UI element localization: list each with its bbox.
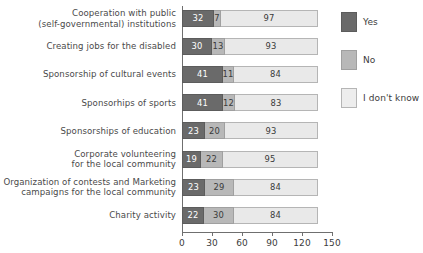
x-axis-tick bbox=[212, 232, 213, 236]
bar-row: 301393 bbox=[182, 38, 318, 55]
bar-row: 232093 bbox=[182, 122, 318, 139]
plot-area: 3279730139341118441128323209319229523298… bbox=[182, 0, 342, 232]
bar-segment: 22 bbox=[201, 151, 223, 168]
bar-segment: 95 bbox=[223, 151, 318, 168]
bar-value-label: 93 bbox=[266, 42, 277, 50]
bar-segment: 23 bbox=[182, 122, 205, 139]
category-label-line: Sponsorhips of sports bbox=[0, 98, 176, 109]
category-label-line: campaigns for the local community bbox=[0, 187, 176, 198]
category-label-line: (self-governmental) institutions bbox=[0, 19, 176, 30]
x-axis-line bbox=[182, 232, 333, 233]
x-axis-tick-label: 120 bbox=[293, 238, 310, 248]
bar-row: 192295 bbox=[182, 151, 318, 168]
category-label-line: Organization of contests and Marketing bbox=[0, 177, 176, 188]
category-axis-labels: Cooperation with public(self-governmenta… bbox=[0, 0, 180, 232]
legend-label: No bbox=[363, 55, 375, 65]
bar-value-label: 30 bbox=[192, 42, 203, 50]
bar-value-label: 23 bbox=[188, 183, 199, 191]
bar-value-label: 12 bbox=[223, 99, 234, 107]
bar-value-label: 93 bbox=[266, 127, 277, 135]
bar-value-label: 11 bbox=[223, 70, 233, 78]
bar-segment: 93 bbox=[225, 122, 318, 139]
x-axis-tick bbox=[242, 232, 243, 236]
bar-value-label: 29 bbox=[214, 183, 225, 191]
bar-value-label: 84 bbox=[270, 183, 281, 191]
bar-value-label: 20 bbox=[209, 127, 220, 135]
category-label-line: Creating jobs for the disabled bbox=[0, 41, 176, 52]
category-label: Charity activity bbox=[0, 210, 176, 221]
bar-segment: 83 bbox=[235, 94, 318, 111]
bar-segment: 30 bbox=[204, 207, 234, 224]
category-label: Sponsorship of cultural events bbox=[0, 69, 176, 80]
legend-swatch-icon bbox=[341, 88, 357, 108]
legend-swatch-icon bbox=[341, 12, 357, 32]
category-label-line: Sponsorship of cultural events bbox=[0, 69, 176, 80]
bar-segment: 7 bbox=[214, 10, 221, 27]
bar-value-label: 19 bbox=[186, 155, 197, 163]
bar-row: 223084 bbox=[182, 207, 318, 224]
category-label-line: Corporate volunteering bbox=[0, 149, 176, 160]
bar-value-label: 22 bbox=[206, 155, 217, 163]
bar-value-label: 7 bbox=[214, 14, 219, 22]
x-axis: 0306090120150 bbox=[182, 232, 342, 253]
category-label-line: Charity activity bbox=[0, 210, 176, 221]
legend-label: Yes bbox=[363, 17, 378, 27]
bar-row: 411184 bbox=[182, 66, 318, 83]
bar-value-label: 32 bbox=[193, 14, 204, 22]
bar-segment: 29 bbox=[205, 179, 234, 196]
category-label-line: Cooperation with public bbox=[0, 8, 176, 19]
bar-value-label: 95 bbox=[265, 155, 276, 163]
category-label-line: for the local community bbox=[0, 159, 176, 170]
bar-segment: 13 bbox=[212, 38, 225, 55]
category-label: Creating jobs for the disabled bbox=[0, 41, 176, 52]
bar-segment: 97 bbox=[221, 10, 318, 27]
stacked-bar-chart: Cooperation with public(self-governmenta… bbox=[0, 0, 423, 253]
bar-segment: 84 bbox=[234, 207, 318, 224]
bar-value-label: 23 bbox=[188, 127, 199, 135]
bar-segment: 19 bbox=[182, 151, 201, 168]
x-axis-tick bbox=[302, 232, 303, 236]
bar-segment: 11 bbox=[223, 66, 234, 83]
bar-value-label: 83 bbox=[271, 99, 282, 107]
bar-value-label: 97 bbox=[264, 14, 275, 22]
legend-item[interactable]: I don't know bbox=[341, 88, 419, 108]
bar-value-label: 84 bbox=[270, 70, 281, 78]
bar-segment: 93 bbox=[225, 38, 318, 55]
bar-row: 411283 bbox=[182, 94, 318, 111]
bar-segment: 12 bbox=[223, 94, 235, 111]
legend-item[interactable]: No bbox=[341, 50, 375, 70]
bar-segment: 30 bbox=[182, 38, 212, 55]
category-label: Corporate volunteeringfor the local comm… bbox=[0, 149, 176, 170]
x-axis-tick-label: 0 bbox=[179, 238, 185, 248]
bar-row: 232984 bbox=[182, 179, 318, 196]
x-axis-tick bbox=[272, 232, 273, 236]
bar-value-label: 41 bbox=[197, 99, 208, 107]
x-axis-tick bbox=[332, 232, 333, 236]
category-label-line: Sponsorships of education bbox=[0, 126, 176, 137]
bar-segment: 32 bbox=[182, 10, 214, 27]
bar-segment: 20 bbox=[205, 122, 225, 139]
category-label: Sponsorhips of sports bbox=[0, 98, 176, 109]
x-axis-tick bbox=[182, 232, 183, 236]
category-label: Sponsorships of education bbox=[0, 126, 176, 137]
legend-item[interactable]: Yes bbox=[341, 12, 378, 32]
bar-segment: 84 bbox=[234, 179, 318, 196]
bar-value-label: 84 bbox=[270, 211, 281, 219]
x-axis-tick-label: 60 bbox=[236, 238, 248, 248]
bar-value-label: 30 bbox=[213, 211, 224, 219]
bar-value-label: 13 bbox=[213, 42, 224, 50]
x-axis-tick-label: 90 bbox=[266, 238, 278, 248]
bar-segment: 84 bbox=[234, 66, 318, 83]
category-label: Organization of contests and Marketingca… bbox=[0, 177, 176, 198]
category-label: Cooperation with public(self-governmenta… bbox=[0, 8, 176, 29]
x-axis-tick-label: 150 bbox=[323, 238, 340, 248]
x-axis-tick-label: 30 bbox=[206, 238, 218, 248]
legend-swatch-icon bbox=[341, 50, 357, 70]
bar-row: 32797 bbox=[182, 10, 318, 27]
legend-label: I don't know bbox=[363, 93, 419, 103]
bar-segment: 22 bbox=[182, 207, 204, 224]
bar-segment: 41 bbox=[182, 94, 223, 111]
bar-segment: 23 bbox=[182, 179, 205, 196]
bar-value-label: 22 bbox=[188, 211, 199, 219]
bar-segment: 41 bbox=[182, 66, 223, 83]
